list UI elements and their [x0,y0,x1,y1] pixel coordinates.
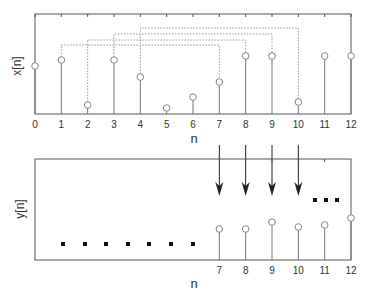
sample-marker [111,57,118,64]
sample-marker [242,226,249,233]
sample-marker [58,57,65,64]
ellipsis-dot [324,198,328,202]
top-xlabel: n [190,131,197,146]
sample-marker [216,226,223,233]
tick-label: 9 [269,265,275,276]
sample-marker [163,105,170,112]
mapping-line [88,40,246,102]
tick-label: 7 [217,265,223,276]
tick-label: 1 [59,119,65,130]
ellipsis-dot [104,242,108,246]
tick-label: 6 [190,119,196,130]
sample-marker [190,94,197,101]
top-ylabel: x[n] [10,56,24,75]
sample-marker [295,99,302,106]
ellipsis-dot [191,242,195,246]
tick-label: 3 [111,119,117,130]
bottom-ylabel: y[n] [13,199,27,218]
tick-label: 0 [32,119,38,130]
downward-arrows [215,145,302,196]
sample-marker [137,74,144,81]
sample-marker [32,63,39,70]
sample-marker [321,53,328,60]
bottom-plot-yn: 789101112 [35,159,357,276]
tick-label: 7 [217,119,223,130]
tick-label: 10 [293,265,305,276]
ellipsis-dot [313,198,317,202]
tick-label: 8 [243,119,249,130]
dashed-mapping-lines [61,28,298,102]
ellipsis-dot [147,242,151,246]
tick-label: 12 [345,119,357,130]
tick-label: 9 [269,119,275,130]
ellipsis-dot [61,242,65,246]
tick-label: 2 [85,119,91,130]
sample-mapping-diagram: 0123456789101112 789101112 x[n] n y[n] n [0,0,372,306]
sample-marker [321,222,328,229]
sample-marker [269,53,276,60]
sample-marker [348,53,355,60]
tick-label: 11 [319,119,330,130]
tick-label: 4 [138,119,144,130]
sample-marker [348,215,355,222]
ellipsis-dot [169,242,173,246]
sample-marker [269,219,276,226]
ellipsis-dot [126,242,130,246]
tick-label: 8 [243,265,249,276]
top-plot-xn: 0123456789101112 [32,14,357,130]
tick-label: 10 [293,119,305,130]
ellipsis-dot [83,242,87,246]
tick-label: 11 [319,265,330,276]
bottom-xlabel: n [190,276,197,291]
tick-label: 5 [164,119,170,130]
sample-marker [295,224,302,231]
sample-marker [84,102,91,109]
sample-marker [242,53,249,60]
sample-marker [216,79,223,86]
ellipsis-dot [335,198,339,202]
tick-label: 12 [345,265,357,276]
